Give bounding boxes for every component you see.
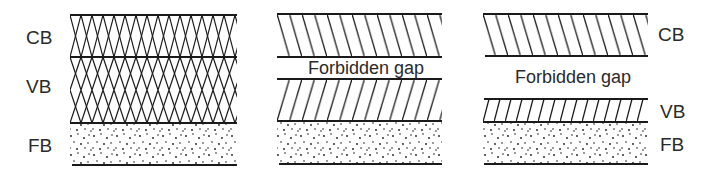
label-vb: VB: [660, 101, 685, 122]
label-fb: FB: [28, 135, 52, 156]
cb-band-hatch: [483, 14, 648, 56]
vb-band-hatch: [483, 99, 648, 122]
label-fb: FB: [660, 134, 684, 155]
label-cb: CB: [26, 27, 52, 48]
panel-large-gap: Forbidden gap CB VB FB: [483, 14, 685, 164]
vb-band-hatch: [277, 79, 442, 121]
fb-band-dots: [70, 124, 237, 164]
panel-overlapping-bands: CB VB FB: [26, 15, 237, 165]
band-diagram: CB VB FB Forbidden gap Forbidden gap CB …: [0, 0, 706, 176]
forbidden-gap-label: Forbidden gap: [308, 58, 424, 78]
fb-band-dots: [483, 123, 648, 164]
label-cb: CB: [658, 24, 684, 45]
cb-band-crosshatch: [70, 15, 237, 57]
vb-band-crosshatch: [70, 57, 237, 123]
forbidden-gap-label: Forbidden gap: [515, 67, 631, 87]
fb-band-dots: [277, 122, 442, 164]
label-vb: VB: [26, 76, 51, 97]
panel-small-gap: Forbidden gap: [277, 14, 442, 164]
cb-band-hatch: [277, 14, 442, 57]
